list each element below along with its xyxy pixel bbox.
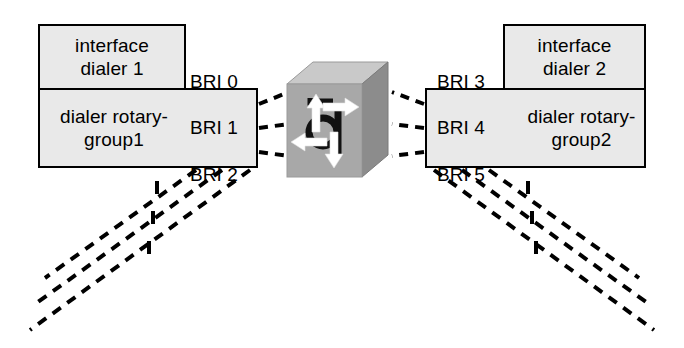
- bri-interface-item: BRI 2: [190, 163, 258, 186]
- bri-interface-item: BRI 5: [437, 163, 509, 186]
- interface-dialer-1-box: interface dialer 1: [38, 24, 186, 90]
- right-switch-connectors: [392, 92, 424, 156]
- right-trunk-tick-marks: [528, 181, 536, 254]
- dialer-rotary-group-1-label: dialer rotary- group1: [40, 105, 188, 151]
- interface-dialer-2-label: interface dialer 2: [538, 34, 612, 80]
- bri-interface-item: BRI 3: [437, 70, 509, 93]
- connector-bri5-switch: [392, 152, 424, 156]
- multilayer-switch-icon: [283, 60, 393, 182]
- connector-bri3-switch: [392, 92, 424, 104]
- connector-bri4-switch: [392, 124, 424, 128]
- bri-interface-item: BRI 4: [437, 116, 509, 139]
- cube-front-face: [287, 84, 362, 177]
- switch-cube-svg: [283, 60, 393, 182]
- interface-dialer-2-box: interface dialer 2: [503, 24, 646, 90]
- dialer-rotary-group-2-label: dialer rotary- group2: [509, 105, 654, 151]
- left-bri-interface-list: BRI 0 BRI 1 BRI 2: [188, 47, 258, 209]
- network-diagram: interface dialer 1 dialer rotary- group1…: [0, 0, 684, 348]
- interface-dialer-1-label: interface dialer 1: [75, 34, 149, 80]
- dialer-rotary-group-1-box: dialer rotary- group1 BRI 0 BRI 1 BRI 2: [38, 88, 258, 168]
- dialer-rotary-group-2-box: BRI 3 BRI 4 BRI 5 dialer rotary- group2: [425, 88, 646, 168]
- bri-interface-item: BRI 0: [190, 70, 258, 93]
- bri-interface-item: BRI 1: [190, 116, 258, 139]
- right-bri-interface-list: BRI 3 BRI 4 BRI 5: [427, 47, 509, 209]
